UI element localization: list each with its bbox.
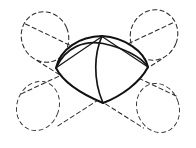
figure-root: Line drawing of two equal circular cylin… — [0, 0, 196, 148]
intersecting-cylinders-svg: Two intersecting circular cylinders Line… — [0, 0, 196, 148]
cap-lower-right-ellipse — [130, 77, 187, 138]
intersection-solid-group — [56, 36, 148, 103]
cap-lower-left-ellipse — [10, 75, 67, 136]
